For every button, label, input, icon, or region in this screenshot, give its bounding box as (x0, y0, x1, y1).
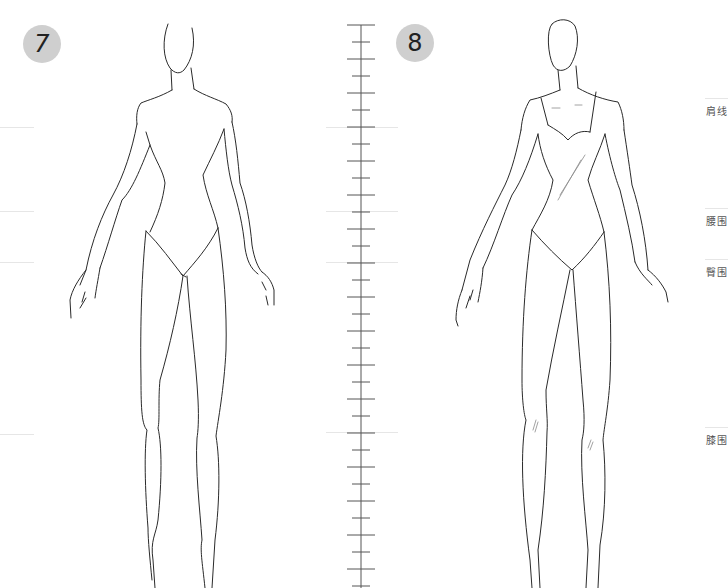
croquis-figure-8 (456, 20, 668, 588)
croquis-sheet: 肩线 腰围 臀围 膝围 7 8 (0, 0, 728, 588)
measurement-ruler (347, 25, 375, 588)
croquis-drawings (0, 0, 728, 588)
croquis-figure-7 (70, 24, 274, 588)
